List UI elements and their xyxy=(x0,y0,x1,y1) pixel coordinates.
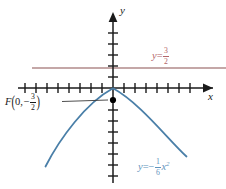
focus-numerator: 3 xyxy=(30,93,36,101)
left-paren-icon: ( xyxy=(11,94,15,110)
parabola-equation-label: y=−16x2 xyxy=(138,158,170,177)
x-axis xyxy=(18,83,213,93)
right-paren-icon: ) xyxy=(37,94,41,110)
directrix-denominator: 2 xyxy=(163,57,169,65)
focus-denominator: 2 xyxy=(30,103,36,111)
focus-point-label: F(0, −32) xyxy=(5,93,40,112)
focus-leader-line xyxy=(62,100,108,102)
focus-point-dot xyxy=(110,97,116,103)
focus-fraction: 32 xyxy=(30,93,36,112)
directrix-numerator: 3 xyxy=(163,47,169,55)
directrix-equals: = xyxy=(157,50,163,61)
coordinate-separator: , xyxy=(20,96,23,107)
parabola-figure: y x y=32 y=−16x2 F(0, −32) xyxy=(0,0,226,189)
parabola-minus-sign: − xyxy=(149,161,155,172)
parabola-exponent: 2 xyxy=(166,160,169,167)
directrix-equation-label: y=32 xyxy=(152,47,169,66)
x-axis-label: x xyxy=(208,91,213,102)
y-axis-label: y xyxy=(120,5,125,16)
directrix-fraction: 32 xyxy=(163,47,169,66)
focus-minus-sign: − xyxy=(24,96,30,107)
